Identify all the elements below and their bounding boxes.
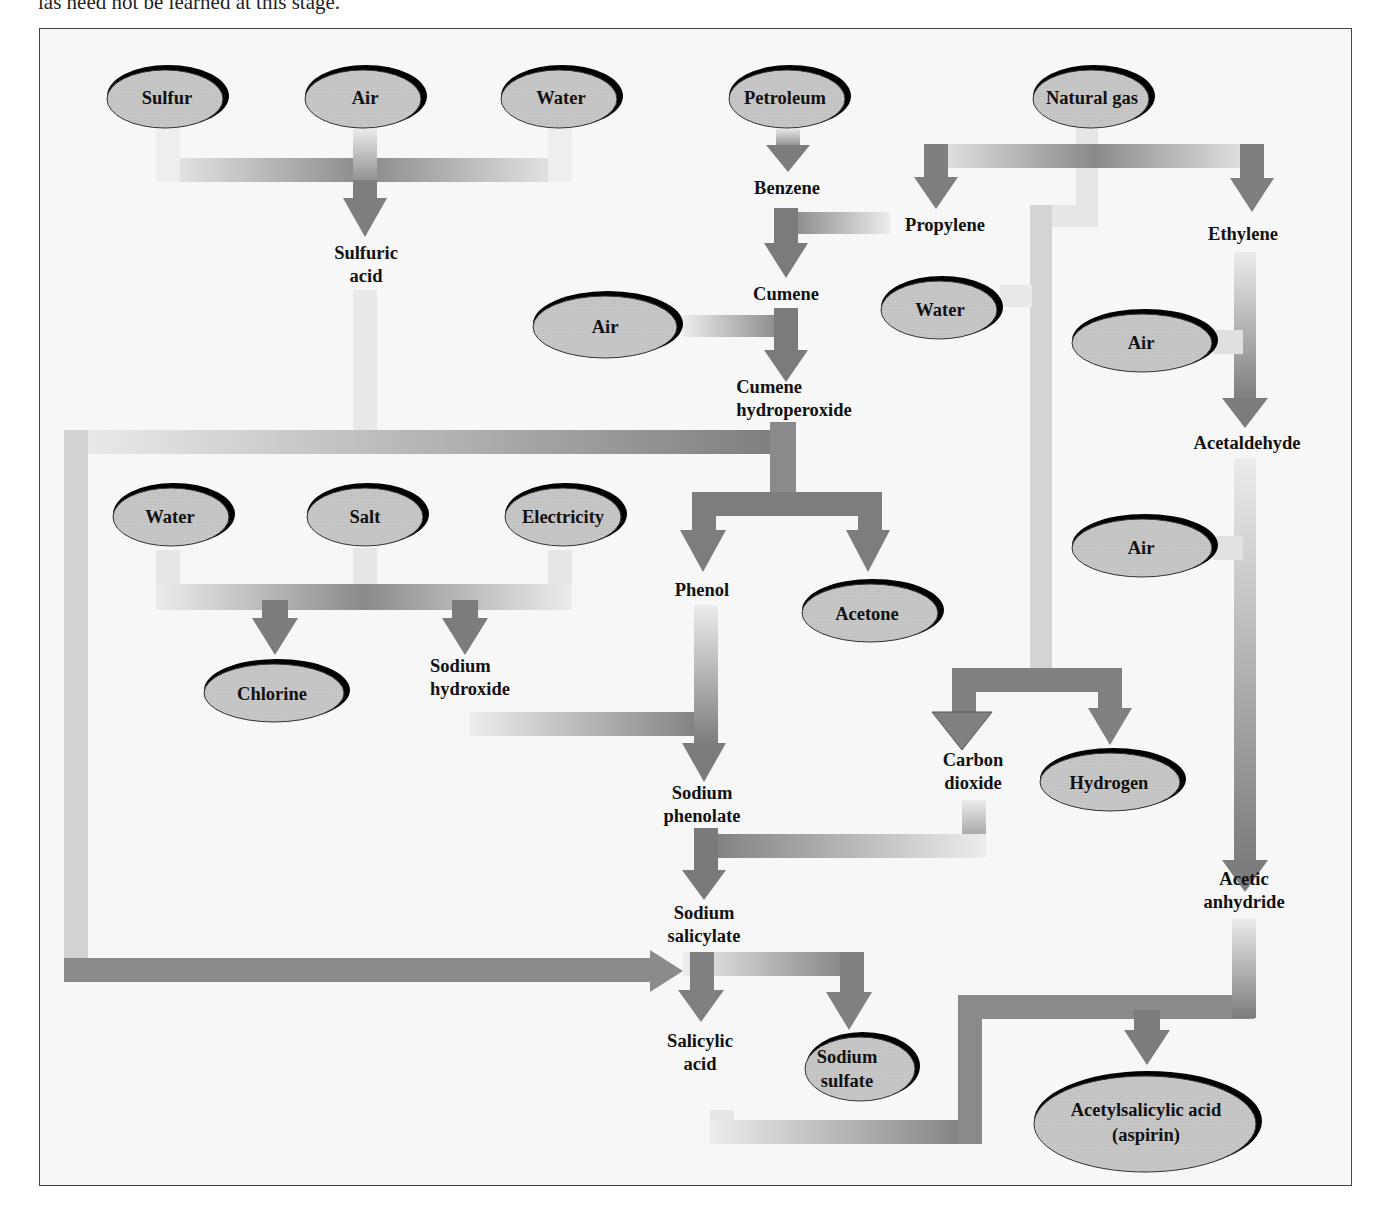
svg-text:Natural gas: Natural gas <box>1046 88 1138 108</box>
svg-text:Acetylsalicylic acid: Acetylsalicylic acid <box>1071 1100 1222 1120</box>
label-salicylic-acid: Salicylic acid <box>667 1030 733 1076</box>
svg-text:sulfate: sulfate <box>821 1071 873 1091</box>
svg-text:Air: Air <box>592 317 619 337</box>
svg-text:Salt: Salt <box>350 507 382 527</box>
svg-text:Water: Water <box>145 507 194 527</box>
svg-text:Electricity: Electricity <box>522 507 605 527</box>
product-hydrogen: Hydrogen <box>1040 748 1186 811</box>
raw-material-sulfur: Sulfur <box>107 65 229 128</box>
raw-material-salt: Salt <box>307 483 429 546</box>
label-cumene: Cumene <box>753 283 819 306</box>
product-sodium-sulfate: Sodium sulfate <box>805 1032 920 1101</box>
raw-material-water-brine: Water <box>113 483 235 546</box>
svg-text:(aspirin): (aspirin) <box>1112 1125 1180 1146</box>
raw-material-water-steam: Water <box>881 276 1003 339</box>
svg-text:Hydrogen: Hydrogen <box>1070 773 1150 793</box>
svg-text:Air: Air <box>1128 538 1155 558</box>
svg-text:Acetone: Acetone <box>835 604 899 624</box>
label-propylene: Propylene <box>905 214 985 237</box>
product-chlorine: Chlorine <box>204 659 350 722</box>
label-sodium-hydroxide: Sodium hydroxide <box>430 655 510 701</box>
svg-text:Petroleum: Petroleum <box>744 88 826 108</box>
raw-material-water: Water <box>501 65 623 128</box>
raw-material-air: Air <box>305 65 427 128</box>
product-acetone: Acetone <box>802 579 944 642</box>
label-benzene: Benzene <box>754 177 820 200</box>
svg-text:Chlorine: Chlorine <box>237 684 307 704</box>
raw-material-air-acetaldehyde: Air <box>1072 309 1218 372</box>
svg-text:Air: Air <box>1128 333 1155 353</box>
connectors <box>64 125 1274 1144</box>
label-sodium-phenolate: Sodium phenolate <box>663 782 740 828</box>
label-phenol: Phenol <box>675 579 729 602</box>
raw-material-electricity: Electricity <box>505 483 627 546</box>
node-label: Sulfur <box>142 88 192 108</box>
svg-text:Sodium: Sodium <box>817 1047 878 1067</box>
raw-material-natural-gas: Natural gas <box>1033 65 1155 128</box>
product-aspirin: Acetylsalicylic acid (aspirin) <box>1034 1071 1262 1172</box>
label-cumene-hydroperoxide: Cumene hydroperoxide <box>736 376 851 422</box>
svg-text:Water: Water <box>915 300 964 320</box>
label-acetic-anhydride: Acetic anhydride <box>1203 868 1284 914</box>
raw-material-air-anhydride: Air <box>1072 514 1218 577</box>
svg-text:Air: Air <box>352 88 379 108</box>
label-sulfuric-acid: Sulfuric acid <box>334 242 398 288</box>
raw-material-petroleum: Petroleum <box>729 65 851 128</box>
svg-text:Water: Water <box>536 88 585 108</box>
label-ethylene: Ethylene <box>1208 223 1278 246</box>
label-carbon-dioxide: Carbon dioxide <box>943 749 1004 795</box>
raw-material-air-cumene: Air <box>533 291 683 358</box>
label-sodium-salicylate: Sodium salicylate <box>668 902 741 948</box>
label-acetaldehyde: Acetaldehyde <box>1194 432 1301 455</box>
